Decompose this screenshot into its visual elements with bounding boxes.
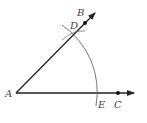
construction-arc (62, 25, 97, 106)
label-c: C (114, 99, 122, 110)
label-e: E (97, 99, 106, 110)
point-b-dot (83, 21, 87, 25)
geometry-diagram: A B D E C (0, 0, 147, 123)
label-b: B (76, 7, 84, 18)
ray-ab (16, 13, 95, 93)
label-d: D (69, 20, 78, 31)
label-a: A (4, 88, 12, 99)
point-c-dot (116, 91, 120, 95)
